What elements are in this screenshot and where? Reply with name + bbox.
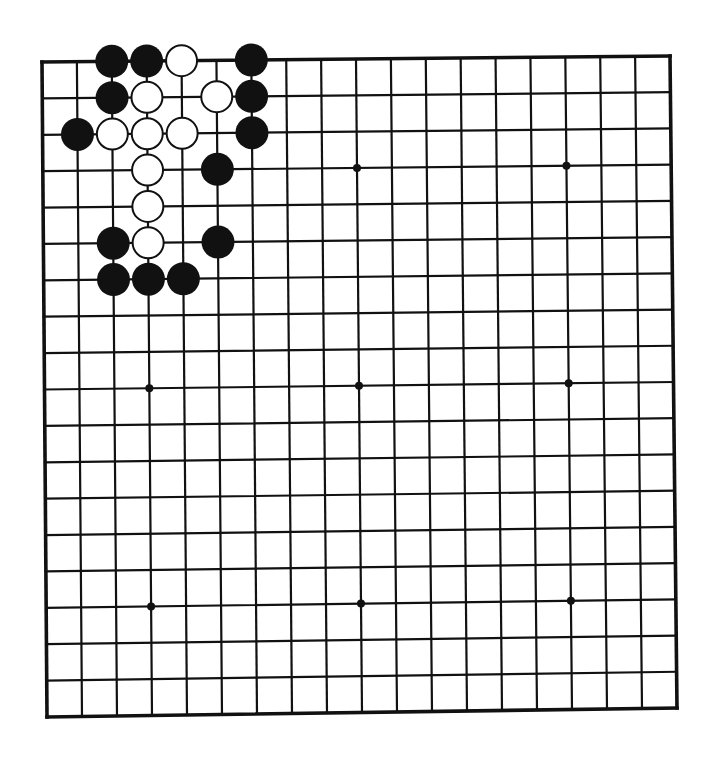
- white-stone-icon: [201, 81, 232, 112]
- star-point-icon: [567, 597, 575, 605]
- black-stone-icon: [167, 262, 200, 295]
- black-stone-icon: [235, 80, 268, 113]
- black-stone-icon: [201, 226, 234, 259]
- white-stone-icon: [133, 227, 164, 258]
- white-stone-icon: [97, 119, 128, 150]
- black-stone-icon: [235, 116, 268, 149]
- black-stone-icon: [130, 45, 163, 78]
- white-stone-icon: [167, 118, 198, 149]
- black-stone-icon: [201, 153, 234, 186]
- black-stone-icon: [235, 44, 268, 77]
- black-stone-icon: [132, 263, 165, 296]
- white-stone-icon: [166, 45, 197, 76]
- go-board-diagram: [0, 0, 716, 758]
- star-point-icon: [145, 384, 153, 392]
- board-grid-group: [42, 44, 677, 718]
- white-stone-icon: [132, 191, 163, 222]
- white-stone-icon: [131, 82, 162, 113]
- star-point-icon: [355, 382, 363, 390]
- white-stone-icon: [132, 155, 163, 186]
- black-stone-icon: [61, 118, 94, 151]
- black-stone-icon: [95, 45, 128, 78]
- white-stone-icon: [132, 118, 163, 149]
- star-point-icon: [565, 379, 573, 387]
- star-point-icon: [353, 164, 361, 172]
- star-point-icon: [562, 162, 570, 170]
- black-stone-icon: [96, 81, 129, 114]
- star-point-icon: [147, 602, 155, 610]
- go-board: [0, 0, 716, 758]
- black-stone-icon: [97, 227, 130, 260]
- star-point-icon: [357, 600, 365, 608]
- black-stone-icon: [97, 263, 130, 296]
